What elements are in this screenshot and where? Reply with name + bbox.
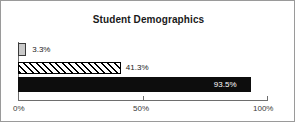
chart-title: Student Demographics (1, 14, 295, 25)
bar-row: 41.3% (18, 62, 267, 74)
x-tick-label-0: 0% (13, 104, 25, 113)
x-tick-mark-0 (18, 96, 19, 100)
x-tick-mark-50 (143, 96, 144, 100)
bar-label-series-1: 3.3% (32, 43, 50, 56)
bar-series-2[interactable] (18, 62, 121, 74)
chart-container: Student Demographics 3.3% 41.3% 93.5% 0%… (0, 0, 295, 122)
bar-label-series-3: 93.5% (214, 77, 237, 92)
bar-row: 3.3% (18, 43, 267, 56)
bar-row: 93.5% (18, 77, 267, 92)
x-tick-mark-100 (267, 96, 268, 100)
plot-area: 3.3% 41.3% 93.5% (18, 43, 267, 99)
x-tick-label-100: 100% (253, 104, 273, 113)
x-axis-line (18, 100, 268, 101)
bar-label-series-2: 41.3% (126, 62, 149, 74)
bar-series-1[interactable] (18, 43, 26, 56)
x-tick-label-50: 50% (133, 104, 149, 113)
